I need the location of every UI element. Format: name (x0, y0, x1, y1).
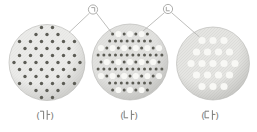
particle-small-dot (34, 75, 37, 78)
particle-small-dot (51, 40, 54, 43)
particle-small-dot (62, 40, 65, 43)
particle-small-dot (18, 82, 21, 85)
particle-small-dot (34, 47, 37, 50)
particle-large-dot (198, 83, 205, 90)
particle-large-dot (215, 71, 222, 78)
particle-small-dot (134, 33, 137, 36)
particle-small-dot (137, 40, 140, 43)
particle-large-dot (98, 73, 104, 79)
particle-small-dot (45, 75, 48, 78)
particle-small-dot (131, 40, 134, 43)
particle-large-dot (98, 45, 104, 51)
particle-small-dot (102, 54, 105, 57)
particle-large-dot (204, 71, 211, 78)
particle-small-dot (108, 68, 111, 71)
particle-large-dot (209, 60, 216, 67)
label-close-paren: ) (134, 110, 138, 121)
particle-small-dot (160, 54, 163, 57)
particle-small-dot (29, 54, 32, 57)
particle-small-dot (111, 33, 114, 36)
particle-small-dot (45, 47, 48, 50)
particle-small-dot (73, 68, 76, 71)
vessel-da-label-glyph (205, 110, 215, 120)
particle-small-dot (45, 61, 48, 64)
particle-large-dot (156, 73, 162, 79)
callout-nieun-leader-line (171, 13, 199, 38)
callout-nieun (163, 4, 172, 13)
particle-small-dot (143, 54, 146, 57)
particle-small-dot (126, 54, 129, 57)
particle-small-dot (100, 61, 103, 64)
vessel-na-label: () (120, 110, 138, 121)
particle-large-dot (198, 37, 205, 44)
particle-small-dot (62, 68, 65, 71)
particle-small-dot (97, 68, 100, 71)
particle-small-dot (140, 75, 143, 78)
particle-large-dot (115, 59, 121, 65)
particle-small-dot (149, 40, 152, 43)
particle-small-dot (111, 61, 114, 64)
particle-small-dot (56, 61, 59, 64)
particle-small-dot (40, 40, 43, 43)
particle-small-dot (51, 82, 54, 85)
callout-giyeok (88, 5, 97, 14)
particle-small-dot (40, 96, 43, 99)
particle-small-dot (137, 68, 140, 71)
particle-small-dot (40, 82, 43, 85)
particle-small-dot (146, 89, 149, 92)
particle-small-dot (126, 82, 129, 85)
particle-small-dot (123, 89, 126, 92)
particle-small-dot (114, 68, 117, 71)
vessel-na-label-glyph (124, 110, 134, 120)
particle-small-dot (131, 82, 134, 85)
particle-large-dot (127, 59, 133, 65)
particle-small-dot (18, 68, 21, 71)
particle-small-dot (111, 89, 114, 92)
particle-small-dot (129, 47, 132, 50)
particle-small-dot (120, 82, 123, 85)
particle-small-dot (155, 54, 158, 57)
particle-large-dot (209, 83, 216, 90)
particle-small-dot (62, 54, 65, 57)
particle-small-dot (108, 82, 111, 85)
particle-small-dot (149, 82, 152, 85)
particle-large-dot (121, 73, 127, 79)
callout-giyeok-leader-line (69, 13, 90, 33)
particle-small-dot (123, 33, 126, 36)
particle-small-dot (23, 61, 26, 64)
particle-small-dot (143, 82, 146, 85)
particle-large-dot (127, 87, 133, 93)
particle-small-dot (62, 82, 65, 85)
particle-small-dot (29, 82, 32, 85)
particle-small-dot (126, 68, 129, 71)
particle-small-dot (120, 54, 123, 57)
particle-small-dot (117, 47, 120, 50)
label-close-paren: ) (215, 110, 219, 121)
particle-large-dot (209, 37, 216, 44)
particle-large-dot (156, 45, 162, 51)
particle-large-dot (115, 31, 121, 37)
particle-small-dot (29, 68, 32, 71)
particle-small-dot (18, 54, 21, 57)
particle-large-dot (231, 60, 238, 67)
particle-small-dot (131, 54, 134, 57)
particle-large-dot (204, 48, 211, 55)
particle-large-dot (133, 45, 139, 51)
particle-large-dot (198, 60, 205, 67)
particle-diagram-svg: ()()() (0, 0, 257, 132)
vessel-ga-label-glyph (40, 110, 50, 120)
particle-large-dot (104, 59, 110, 65)
particle-small-dot (23, 47, 26, 50)
particle-large-dot (133, 73, 139, 79)
particle-small-dot (56, 33, 59, 36)
particle-large-dot (127, 31, 133, 37)
particle-small-dot (131, 68, 134, 71)
particle-small-dot (45, 89, 48, 92)
particle-large-dot (187, 60, 194, 67)
particle-small-dot (23, 75, 26, 78)
callout-nieun-leader-line (143, 13, 165, 32)
particle-small-dot (120, 40, 123, 43)
particle-small-dot (155, 68, 158, 71)
particle-small-dot (51, 54, 54, 57)
particle-small-dot (143, 40, 146, 43)
